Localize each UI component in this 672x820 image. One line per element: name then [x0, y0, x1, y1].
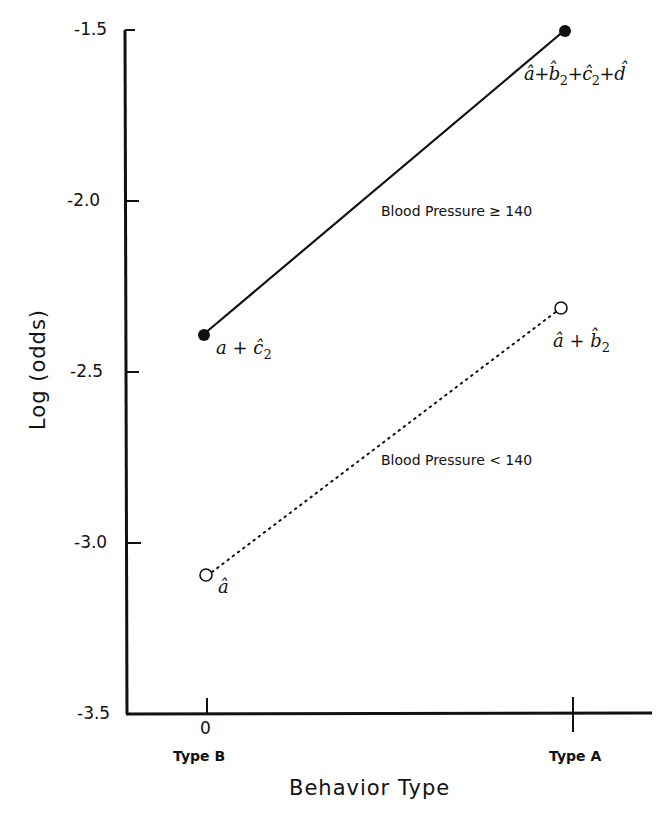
- ann-term: â: [218, 576, 229, 597]
- series-label-bp-low: Blood Pressure < 140: [381, 452, 532, 468]
- ann-term: ĉ: [253, 337, 263, 358]
- ann-term: ĉ: [582, 63, 592, 84]
- ann-term: â: [553, 330, 564, 351]
- ann-term: â: [524, 63, 534, 84]
- ann-sub: 2: [592, 73, 600, 88]
- data-point-bp-low-type-b: [200, 569, 212, 581]
- y-tick-label: -1.5: [74, 19, 107, 39]
- y-tick-label: -2.0: [67, 190, 100, 210]
- ann-sub: 2: [263, 347, 271, 362]
- data-point-bp-high-type-a: [559, 25, 571, 37]
- ann-term: b̂: [590, 330, 602, 351]
- series-label-bp-high: Blood Pressure ≥ 140: [381, 203, 532, 219]
- annotation-bp-low-type-b: â: [218, 576, 229, 597]
- x-category-label-type-b: Type B: [173, 748, 225, 764]
- annotation-bp-high-type-a: â+b̂2+ĉ2+d̂: [524, 63, 625, 88]
- y-axis-title: Log (odds): [26, 310, 50, 430]
- ann-op: +: [232, 337, 247, 358]
- annotation-bp-low-type-a: â + b̂2: [553, 330, 610, 355]
- ann-op: +: [568, 63, 583, 84]
- ann-term: d̂: [614, 63, 625, 84]
- ann-term: a: [216, 337, 227, 358]
- y-tick-label: -3.5: [77, 703, 110, 723]
- ann-sub: 2: [560, 73, 568, 88]
- x-category-label-type-a: Type A: [549, 748, 601, 764]
- series-line-bp-high: [204, 30, 565, 334]
- data-point-bp-high-type-b: [198, 329, 210, 341]
- y-tick-label: -3.0: [74, 532, 107, 552]
- ann-term: b̂: [549, 63, 560, 84]
- ann-op: +: [534, 63, 549, 84]
- y-tick-label: -2.5: [70, 361, 103, 381]
- annotation-bp-high-type-b: a + ĉ2: [216, 337, 272, 362]
- ann-op: +: [569, 330, 584, 351]
- data-point-bp-low-type-a: [555, 302, 567, 314]
- x-tick-label: 0: [200, 718, 211, 738]
- ann-sub: 2: [602, 340, 610, 355]
- chart-canvas: [0, 0, 672, 820]
- ann-op: +: [600, 63, 615, 84]
- x-axis-title: Behavior Type: [289, 776, 450, 800]
